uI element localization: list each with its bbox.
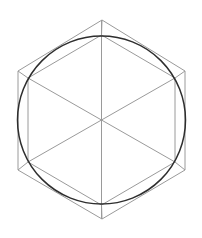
corner-connector-line (18, 71, 28, 78)
corner-connector-line (175, 162, 185, 170)
corner-connector-line (18, 162, 28, 170)
hexagon-circle-diagram (0, 0, 202, 238)
corner-connector-line (175, 71, 185, 78)
diameter-lines (18, 20, 185, 219)
